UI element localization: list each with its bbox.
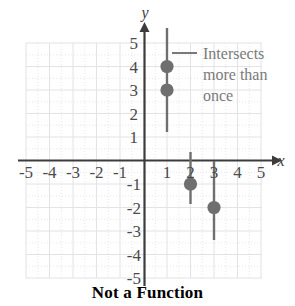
x-tick-label: 5	[257, 163, 266, 182]
x-axis-label: x	[276, 152, 284, 169]
y-tick-label: -4	[127, 246, 142, 265]
figure-not-a-function: -5 -4 -3 -2 -1 1 2 3 4 5 5 4 3 2 1 -1 -2…	[0, 0, 295, 306]
y-tick-label: -1	[127, 175, 141, 194]
x-tick-label: 4	[233, 163, 242, 182]
annotation-line-1: Intersects	[203, 43, 264, 64]
x-tick-label: 2	[186, 163, 195, 182]
y-tick-label: 3	[130, 81, 139, 100]
point-1-3	[160, 83, 173, 96]
x-tick-label: -2	[89, 163, 103, 182]
x-tick-label: -3	[66, 163, 80, 182]
x-tick-label: 1	[163, 163, 172, 182]
y-axis-label: y	[139, 4, 149, 22]
annotation-line-3: once	[203, 85, 233, 106]
point-3-neg2	[207, 201, 220, 214]
y-tick-label: 1	[130, 128, 139, 147]
y-tick-label: 5	[130, 34, 139, 53]
x-tick-labels: -5 -4 -3 -2 -1 1 2 3 4 5	[19, 163, 265, 182]
y-tick-label: -3	[127, 222, 141, 241]
x-tick-label: -4	[42, 163, 57, 182]
point-1-4	[160, 60, 173, 73]
y-tick-label: 4	[130, 58, 139, 77]
annotation-line-2: more than	[203, 64, 267, 85]
y-tick-label: -2	[127, 199, 141, 218]
y-tick-label: 2	[130, 105, 139, 124]
x-tick-label: -1	[113, 163, 127, 182]
figure-caption: Not a Function	[0, 283, 295, 303]
x-tick-label: 3	[210, 163, 219, 182]
y-axis-arrowhead	[140, 22, 150, 32]
x-tick-label: -5	[19, 163, 33, 182]
